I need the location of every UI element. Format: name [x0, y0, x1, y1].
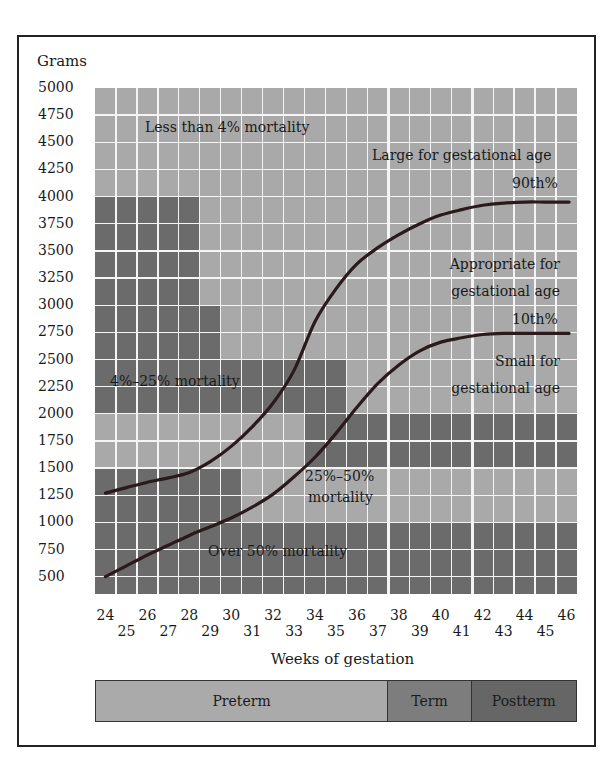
label-aga-2: gestational age	[430, 283, 560, 300]
grid-cell	[326, 197, 347, 225]
grid-cell	[137, 495, 158, 523]
grid-cell	[346, 414, 367, 442]
grid-cell	[388, 550, 409, 578]
grid-cell	[367, 115, 388, 143]
grid-cell	[305, 88, 326, 116]
grid-cell	[263, 577, 284, 594]
grid-line-vertical	[262, 88, 263, 594]
grid-cell	[221, 577, 242, 594]
grid-cell	[493, 550, 514, 578]
grid-cell	[263, 468, 284, 496]
grid-line-horizontal	[95, 440, 577, 441]
y-tick: 5000	[38, 80, 86, 94]
y-tick: 3750	[38, 216, 86, 230]
grid-cell	[430, 550, 451, 578]
x-tick: 33	[282, 624, 306, 638]
grid-cell	[535, 88, 556, 116]
grid-cell	[137, 278, 158, 306]
grid-cell	[451, 88, 472, 116]
x-tick: 28	[177, 608, 201, 622]
grid-cell	[158, 224, 179, 252]
grid-cell	[493, 197, 514, 225]
grid-cell	[95, 332, 116, 360]
grid-cell	[116, 522, 137, 550]
grid-cell	[284, 441, 305, 469]
grid-cell	[305, 169, 326, 197]
grid-cell	[284, 360, 305, 388]
grid-cell	[326, 169, 347, 197]
grid-cell	[242, 495, 263, 523]
grid-cell	[409, 522, 430, 550]
grid-cell	[367, 441, 388, 469]
grid-cell	[472, 577, 493, 594]
grid-cell	[95, 278, 116, 306]
grid-cell	[472, 468, 493, 496]
grid-cell	[158, 197, 179, 225]
grid-cell	[305, 414, 326, 442]
grid-cell	[284, 414, 305, 442]
grid-cell	[95, 305, 116, 333]
grid-cell	[346, 550, 367, 578]
grid-cell	[200, 197, 221, 225]
grid-cell	[388, 197, 409, 225]
y-axis-title: Grams	[37, 52, 87, 70]
grid-cell	[179, 142, 200, 170]
grid-cell	[556, 414, 577, 442]
grid-cell	[556, 305, 577, 333]
grid-cell	[95, 169, 116, 197]
grid-cell	[221, 441, 242, 469]
grid-cell	[305, 278, 326, 306]
x-tick: 26	[135, 608, 159, 622]
x-tick: 40	[429, 608, 453, 622]
x-tick: 45	[534, 624, 558, 638]
grid-cell	[158, 142, 179, 170]
label-lga: Large for gestational age	[372, 147, 552, 164]
grid-cell	[514, 468, 535, 496]
grid-cell	[514, 414, 535, 442]
grid-cell	[430, 414, 451, 442]
y-tick: 4750	[38, 107, 86, 121]
y-tick: 750	[38, 542, 86, 556]
grid-cell	[284, 224, 305, 252]
grid-cell	[242, 468, 263, 496]
grid-cell	[472, 305, 493, 333]
grid-cell	[284, 495, 305, 523]
grid-cell	[284, 251, 305, 279]
grid-cell	[116, 550, 137, 578]
grid-cell	[430, 495, 451, 523]
grid-cell	[95, 197, 116, 225]
y-tick: 2000	[38, 406, 86, 420]
label-high-mortality-1: 25%–50%	[305, 468, 374, 485]
grid-cell	[535, 414, 556, 442]
grid-cell	[200, 278, 221, 306]
grid-cell	[326, 115, 347, 143]
grid-cell	[514, 115, 535, 143]
grid-cell	[451, 197, 472, 225]
grid-cell	[116, 577, 137, 594]
grid-cell	[451, 115, 472, 143]
grid-cell	[556, 495, 577, 523]
grid-cell	[556, 522, 577, 550]
grid-cell	[409, 88, 430, 116]
y-tick: 3500	[38, 243, 86, 257]
grid-cell	[451, 550, 472, 578]
grid-cell	[493, 522, 514, 550]
grid-cell	[284, 387, 305, 415]
grid-cell	[158, 169, 179, 197]
grid-cell	[472, 169, 493, 197]
grid-cell	[409, 414, 430, 442]
grid-cell	[221, 387, 242, 415]
grid-cell	[179, 197, 200, 225]
label-p10: 10th%	[512, 311, 558, 328]
y-tick: 2750	[38, 324, 86, 338]
grid-cell	[263, 142, 284, 170]
grid-cell	[200, 251, 221, 279]
grid-cell	[263, 251, 284, 279]
grid-cell	[556, 115, 577, 143]
grid-cell	[451, 441, 472, 469]
grid-cell	[200, 88, 221, 116]
grid-cell	[326, 278, 347, 306]
x-tick: 46	[555, 608, 579, 622]
grid-line-vertical	[157, 88, 158, 594]
grid-cell	[451, 224, 472, 252]
